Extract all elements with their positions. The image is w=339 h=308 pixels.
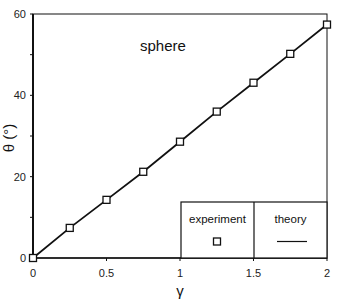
x-tick-label: 1.5: [246, 267, 261, 279]
x-tick-label: 2: [324, 267, 330, 279]
legend: experiment theory: [181, 202, 327, 258]
legend-label-experiment: experiment: [189, 213, 247, 225]
y-tick-label: 20: [14, 171, 26, 183]
experiment-marker: [103, 196, 110, 203]
x-tick-label: 0.5: [99, 267, 114, 279]
experiment-marker: [213, 108, 220, 115]
experiment-marker: [66, 224, 73, 231]
sphere-annotation: sphere: [140, 37, 186, 54]
experiment-marker: [324, 21, 331, 28]
chart: 0204060 00.511.52 sphere θ (°) γ experim…: [0, 0, 339, 308]
y-axis-title: θ (°): [0, 124, 17, 153]
y-tick-label: 0: [20, 252, 26, 264]
experiment-marker: [287, 50, 294, 57]
x-tick-label: 0: [30, 267, 36, 279]
experiment-marker: [250, 79, 257, 86]
x-ticks: 00.511.52: [30, 258, 330, 279]
y-tick-label: 40: [14, 89, 26, 101]
y-tick-label: 60: [14, 8, 26, 20]
experiment-marker: [177, 138, 184, 145]
experiment-marker: [30, 255, 37, 262]
experiment-marker: [140, 168, 147, 175]
legend-square-marker-icon: [214, 238, 221, 245]
x-tick-label: 1: [177, 267, 183, 279]
x-axis-title: γ: [176, 282, 184, 299]
legend-label-theory: theory: [275, 213, 307, 225]
